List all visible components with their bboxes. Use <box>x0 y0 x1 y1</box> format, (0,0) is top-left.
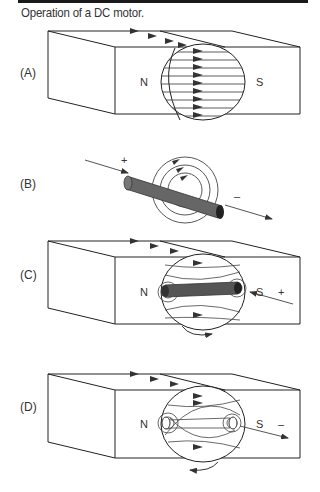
north-pole-label: N <box>140 76 148 88</box>
panel-d: (D) N S – <box>0 360 320 492</box>
polarity-sign: – <box>278 418 285 430</box>
panel-c: (C) N S + <box>0 230 320 360</box>
north-pole-label: N <box>140 286 148 298</box>
panel-b: (B) + – <box>0 130 320 235</box>
south-pole-label: S <box>256 418 263 430</box>
armature-force-diagram: N S + <box>0 230 320 360</box>
panel-a: (A) N S <box>0 0 320 130</box>
magnetic-field-diagram: N S <box>0 0 320 130</box>
positive-terminal-label: + <box>121 154 127 166</box>
armature-rotation-diagram: N S – <box>0 360 320 492</box>
conductor-field-diagram: + – <box>0 130 320 235</box>
polarity-sign: + <box>278 286 284 298</box>
negative-terminal-label: – <box>234 190 241 202</box>
south-pole-label: S <box>256 286 263 298</box>
north-pole-label: N <box>140 418 148 430</box>
south-pole-label: S <box>256 76 263 88</box>
